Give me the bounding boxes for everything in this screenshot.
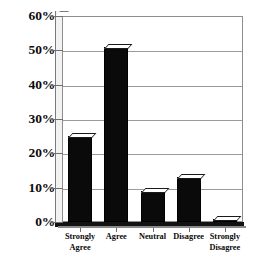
x-axis: Strongly AgreeAgreeNeutralDisagreeStrong… (55, 232, 250, 265)
bar-top-face (68, 133, 97, 138)
y-tick-label: 0% (3, 215, 55, 229)
y-tick-mark (50, 119, 63, 120)
x-tick-mark (153, 228, 154, 232)
y-tick-label: 20% (3, 147, 55, 161)
bar (177, 177, 201, 222)
y-tick-label: 50% (3, 44, 55, 58)
x-tick-mark (189, 228, 190, 232)
y-tick-label: 10% (3, 181, 55, 195)
bar-body (177, 177, 201, 222)
y-tick-label: 30% (3, 112, 55, 126)
y-tick-mark (50, 222, 63, 223)
x-tick-mark (116, 228, 117, 232)
y-tick-mark (50, 50, 63, 51)
bars-layer (62, 16, 243, 222)
bar (104, 47, 128, 222)
bar (141, 191, 165, 222)
y-axis: 0%10%20%30%40%50%60% (0, 0, 55, 265)
bar-body (104, 47, 128, 222)
y-tick-mark (50, 188, 63, 189)
bar-chart: 0%10%20%30%40%50%60% Strongly AgreeAgree… (0, 0, 259, 265)
bar-top-face (141, 188, 170, 193)
bar-body (141, 191, 165, 222)
y-tick-label: 60% (3, 9, 55, 23)
y-tick-label: 40% (3, 78, 55, 92)
bar-top-face (177, 174, 206, 179)
bar-top-face (104, 44, 133, 49)
x-tick-mark (225, 228, 226, 232)
x-tick-label: Strongly Disagree (201, 232, 249, 253)
bar (68, 136, 92, 222)
y-tick-mark (50, 153, 63, 154)
y-tick-mark (50, 16, 63, 17)
y-tick-mark (50, 85, 63, 86)
bar-top-face (213, 216, 242, 221)
x-tick-mark (80, 228, 81, 232)
bar-body (68, 136, 92, 222)
